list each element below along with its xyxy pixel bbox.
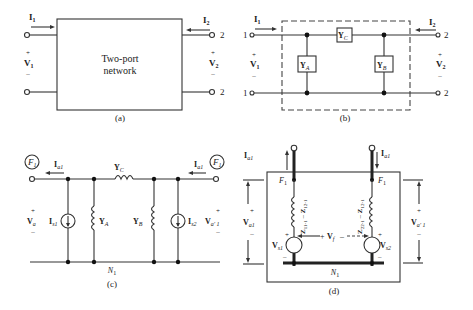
terminal-1-bottom — [25, 90, 30, 95]
svg-text:F1: F1 — [27, 157, 37, 168]
bus-n1-label: N1 — [330, 268, 339, 278]
current-i1-label: I1 — [254, 14, 261, 25]
current-ia1-right: Ia1 — [381, 149, 390, 159]
impedance-coil-right — [370, 197, 373, 227]
svg-text:+: + — [252, 51, 256, 59]
svg-text:–: – — [251, 72, 256, 80]
current-ia1-left: Ia1 — [244, 151, 253, 161]
block-label-line1: Two-port — [101, 53, 138, 64]
svg-text:–: – — [437, 72, 442, 80]
svg-text:+: + — [26, 49, 30, 57]
voltage-vf-label: Vf — [327, 232, 336, 242]
z-right-label: Z22-1 – Z12-1 — [356, 199, 365, 234]
vs1-label: Vs1 — [272, 241, 283, 251]
terminal-f1-right — [369, 145, 375, 151]
caption-b: (b) — [340, 113, 351, 123]
inductor-yb — [152, 206, 155, 230]
is1-label: Is1 — [49, 217, 57, 227]
port1-top-label: 1 — [243, 30, 248, 40]
inductor-yc — [115, 176, 133, 180]
port1-bottom-label: 1 — [243, 88, 248, 98]
is2-label: Is2 — [188, 217, 196, 227]
caption-a: (a) — [115, 113, 125, 123]
voltage-v1-label: V1 — [24, 58, 34, 69]
voltage-va-prime-label: Va′ 1 — [411, 218, 426, 228]
z-left-label: Z11-1 – Z12-1 — [299, 199, 308, 234]
inductor-ya — [92, 206, 95, 230]
port2-top-label: 2 — [220, 30, 225, 40]
voltage-v1-label: V1 — [250, 59, 260, 70]
current-ia1-left: Ia1 — [54, 160, 63, 170]
terminal-2-bottom — [436, 91, 440, 95]
voltage-va-label: Va — [27, 217, 36, 227]
svg-text:F1: F1 — [212, 157, 222, 168]
svg-text:+: + — [211, 49, 215, 57]
block-label-line2: network — [104, 65, 137, 76]
panel-c-fault-circuit: F1 F1 Ia1 Ia1 YC YA YB Is1 Is2 + Va – + … — [25, 155, 224, 289]
terminal-1-bottom — [250, 91, 254, 95]
svg-text:+: + — [216, 207, 220, 215]
panel-b-pi-equivalent: 1 1 2 2 YA YB YC I1 I2 + V1 – + V2 – — [243, 14, 449, 123]
svg-text:–: – — [416, 230, 421, 238]
terminal-1-top — [250, 33, 254, 37]
yb-label: YB — [133, 217, 143, 227]
impedance-coil-left — [292, 197, 295, 227]
panel-d-thevenin-equivalent: Ia1 Ia1 F1 F1 Z11-1 – Z12-1 Z22-1 – Z12-… — [243, 145, 426, 296]
svg-text:–: – — [215, 228, 220, 236]
terminal-2-top — [210, 33, 215, 38]
caption-c: (c) — [107, 279, 117, 289]
terminal-f1-left — [291, 145, 297, 151]
f1-left-label: F1 — [278, 176, 287, 186]
terminal-1-top — [25, 33, 30, 38]
terminal-f1-right — [214, 177, 219, 182]
svg-text:–: – — [25, 70, 30, 78]
two-port-network-figure: Two-port network 2 2 I1 I2 + V1 – + V2 –… — [0, 0, 473, 310]
yc-label: YC — [114, 163, 125, 173]
voltage-va1-label: Va1 — [243, 218, 255, 228]
terminal-2-bottom — [210, 90, 215, 95]
current-ia1-right: Ia1 — [194, 160, 203, 170]
terminal-2-top — [436, 33, 440, 37]
ya-label: YA — [99, 217, 109, 227]
caption-d: (d) — [329, 286, 340, 296]
svg-text:+: + — [438, 51, 442, 59]
svg-text:+: + — [417, 207, 421, 215]
svg-text:+: + — [285, 231, 289, 239]
svg-text:–: – — [249, 230, 254, 238]
voltage-v2-label: V2 — [436, 59, 446, 70]
voltage-v2-label: V2 — [209, 58, 219, 69]
port2-bottom-label: 2 — [444, 88, 449, 98]
voltage-source-vs1 — [286, 237, 302, 253]
svg-text:+: + — [31, 207, 35, 215]
svg-text:+: + — [378, 231, 382, 239]
svg-text:–: – — [339, 232, 345, 241]
svg-text:–: – — [377, 253, 382, 261]
voltage-source-vs2 — [364, 237, 380, 253]
current-i2-label: I2 — [203, 15, 210, 26]
vs2-label: Vs2 — [380, 241, 391, 251]
current-i1-label: I1 — [29, 12, 36, 23]
panel-a-two-port-block: Two-port network 2 2 I1 I2 + V1 – + V2 –… — [24, 12, 225, 123]
terminal-f1-left — [30, 177, 35, 182]
port2-top-label: 2 — [444, 30, 449, 40]
bus-n1-label: N1 — [107, 266, 116, 276]
svg-text:+: + — [250, 207, 254, 215]
port2-bottom-label: 2 — [220, 87, 225, 97]
network-n1-box — [267, 172, 400, 282]
svg-text:–: – — [210, 70, 215, 78]
voltage-va-prime-label: Va′ 1 — [205, 217, 220, 227]
f1-right-label: F1 — [377, 176, 386, 186]
svg-text:+: + — [320, 232, 325, 241]
current-i2-label: I2 — [429, 17, 436, 28]
svg-text:–: – — [30, 228, 35, 236]
svg-text:–: – — [282, 253, 287, 261]
